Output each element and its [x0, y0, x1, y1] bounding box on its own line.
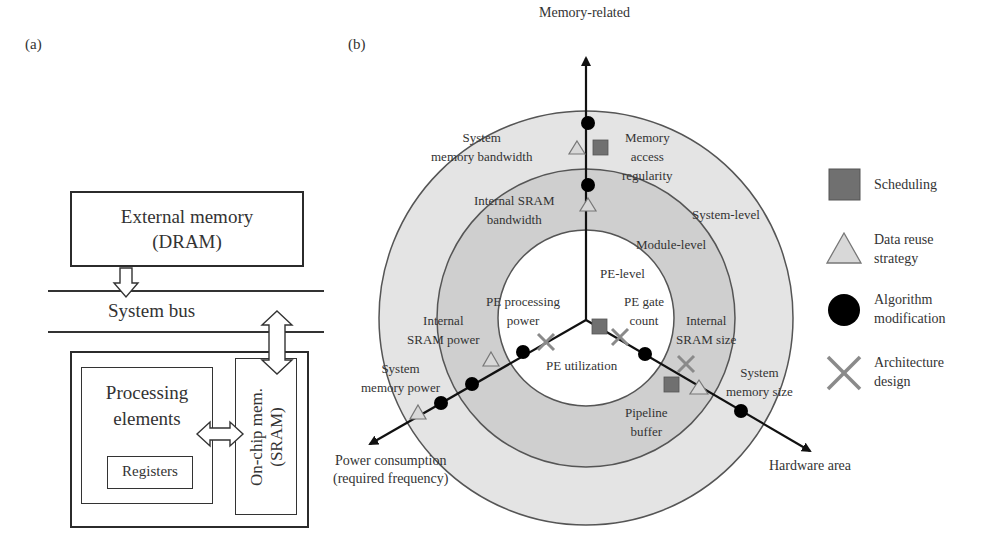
- pipeline-buffer-label: Pipeline buffer: [625, 403, 668, 441]
- scheduling-marker-pe-gate: [592, 319, 607, 334]
- algorithm-marker-system-power: [434, 396, 448, 410]
- legend-architecture-label: Architecture design: [874, 353, 944, 391]
- pe-processing-power-label: PE processing power: [486, 292, 560, 330]
- algorithm-marker-pe-power: [516, 345, 530, 359]
- legend-algorithm-label: Algorithm modification: [874, 290, 946, 328]
- internal-sram-size-label: Internal SRAM size: [676, 311, 736, 349]
- legend-data-reuse-icon: [827, 233, 861, 263]
- design-space-diagram: [0, 0, 1000, 559]
- scheduling-marker-memory-regularity: [593, 140, 608, 155]
- system-memory-bandwidth-label: System memory bandwidth: [431, 128, 532, 166]
- algorithm-marker-system-memory-size: [734, 404, 748, 418]
- pe-gate-count-label: PE gate count: [624, 292, 664, 330]
- pe-utilization-label: PE utilization: [546, 358, 617, 374]
- module-level-label: Module-level: [636, 237, 706, 253]
- algorithm-marker-internal-sram: [581, 178, 595, 192]
- memory-access-regularity-label: Memory access regularity: [622, 128, 673, 185]
- internal-sram-bandwidth-label: Internal SRAM bandwidth: [474, 191, 555, 229]
- algorithm-marker-sram-power: [465, 377, 479, 391]
- internal-sram-power-label: Internal SRAM power: [407, 311, 480, 349]
- power-axis-label: Power consumption (required frequency): [333, 452, 448, 488]
- system-memory-size-label: System memory size: [726, 363, 793, 401]
- legend-data-reuse-label: Data reuse strategy: [874, 230, 933, 268]
- scheduling-marker-pipeline-buffer: [664, 377, 679, 392]
- legend-architecture-icon: [828, 357, 860, 389]
- system-memory-power-label: System memory power: [361, 359, 440, 397]
- memory-axis-label: Memory-related: [539, 5, 630, 21]
- hardware-axis-label: Hardware area: [769, 458, 851, 474]
- legend-scheduling-icon: [829, 169, 860, 200]
- system-level-label: System-level: [692, 207, 760, 223]
- algorithm-marker-memory-system: [581, 116, 595, 130]
- pe-level-label: PE-level: [600, 266, 645, 282]
- algorithm-marker-pe-utilization: [638, 347, 652, 361]
- legend-scheduling-label: Scheduling: [874, 175, 937, 194]
- legend-algorithm-icon: [828, 294, 860, 326]
